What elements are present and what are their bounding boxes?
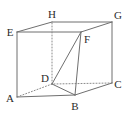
geometry-figure: ABCDEFGH	[0, 0, 126, 117]
vertex-label-D: D	[41, 73, 49, 84]
edge-DA	[17, 84, 52, 97]
vertex-label-F: F	[84, 34, 90, 45]
vertex-label-H: H	[48, 9, 56, 20]
edge-layer	[17, 22, 112, 97]
edge-DB	[52, 84, 75, 95]
edge-BC	[75, 83, 112, 95]
vertex-label-A: A	[6, 93, 14, 104]
vertex-label-E: E	[7, 27, 14, 38]
edge-FG	[81, 22, 112, 32]
edge-HE	[17, 22, 52, 32]
vertex-label-C: C	[114, 79, 121, 90]
vertex-label-G: G	[114, 10, 122, 21]
edge-AB	[17, 95, 75, 97]
vertex-label-B: B	[71, 101, 78, 112]
geometry-canvas	[0, 0, 126, 117]
edge-CD	[52, 83, 112, 84]
